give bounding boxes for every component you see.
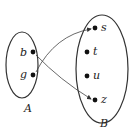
element-z-dot xyxy=(93,98,98,103)
element-u-dot xyxy=(85,74,90,79)
element-b-dot xyxy=(31,50,36,55)
element-t-dot xyxy=(85,50,90,55)
element-s-label: s xyxy=(101,21,107,34)
element-u-label: u xyxy=(93,69,100,82)
set-a-label: A xyxy=(23,102,32,115)
element-s-dot xyxy=(93,26,98,31)
element-t-label: t xyxy=(93,45,98,58)
arrow-b-to-z xyxy=(36,55,91,99)
element-g-label: g xyxy=(20,68,27,81)
set-a: b g A xyxy=(6,32,38,115)
element-z-label: z xyxy=(100,93,107,106)
element-g-dot xyxy=(31,73,36,78)
element-b-label: b xyxy=(20,46,27,59)
set-a-ellipse xyxy=(6,32,38,98)
arrow-g-to-s xyxy=(36,29,91,72)
mapping-diagram: b g A s t u z B xyxy=(0,0,136,136)
set-b-label: B xyxy=(99,117,108,130)
set-b: s t u z B xyxy=(76,15,128,130)
